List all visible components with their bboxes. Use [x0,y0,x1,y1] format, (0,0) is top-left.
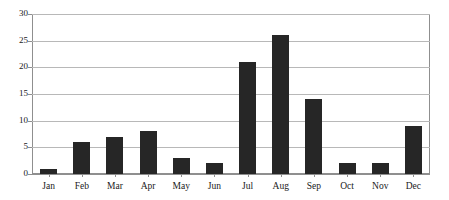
bar [73,142,90,174]
bars-layer [32,14,430,174]
x-axis-tick-label: Mar [98,180,132,192]
x-axis-tick-label: Aug [264,180,298,192]
x-axis-tick-label: Jan [32,180,66,192]
bar [405,126,422,174]
bar [206,163,223,174]
x-tick-mark [347,174,348,177]
x-axis-tick-label: Dec [396,180,430,192]
x-axis-tick-label: May [164,180,198,192]
bar [173,158,190,174]
y-axis-tick-label: 20 [10,62,28,71]
x-tick-mark [281,174,282,177]
x-axis-tick-label: Oct [330,180,364,192]
x-tick-mark [248,174,249,177]
x-axis-tick-label: Nov [363,180,397,192]
bar [305,99,322,174]
y-tick-mark [28,174,32,175]
y-axis-tick-label: 15 [10,89,28,98]
x-tick-mark [314,174,315,177]
x-axis-tick-label: Apr [131,180,165,192]
x-tick-mark [413,174,414,177]
y-axis-tick-label: 0 [10,169,28,178]
x-tick-mark [82,174,83,177]
x-tick-mark [148,174,149,177]
x-tick-mark [380,174,381,177]
x-tick-mark [214,174,215,177]
x-tick-mark [49,174,50,177]
bar [272,35,289,174]
bar-chart: 051015202530 JanFebMarAprMayJunJulAugSep… [0,0,449,200]
bar [339,163,356,174]
x-axis-tick-label: Sep [297,180,331,192]
gridline [32,174,430,175]
y-axis-tick-label: 5 [10,142,28,151]
x-axis-tick-label: Jun [197,180,231,192]
x-axis-tick-label: Jul [231,180,265,192]
y-axis-tick-label: 25 [10,36,28,45]
x-tick-mark [115,174,116,177]
y-axis-tick-label: 10 [10,116,28,125]
bar [106,137,123,174]
bar [140,131,157,174]
x-axis-tick-label: Feb [65,180,99,192]
bar [239,62,256,174]
y-axis-tick-label: 30 [10,9,28,18]
x-tick-mark [181,174,182,177]
bar [372,163,389,174]
